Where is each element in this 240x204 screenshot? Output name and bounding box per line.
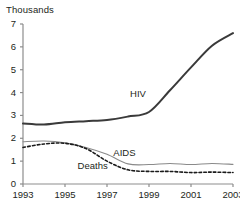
- y-axis-tick-label: 7: [2, 19, 16, 29]
- x-axis-tick-label: 1997: [87, 190, 127, 200]
- chart-container: Thousands 01234567 199319951997199920012…: [0, 0, 240, 204]
- series-label-deaths: Deaths: [78, 161, 108, 171]
- x-axis-tick-label: 1993: [3, 190, 43, 200]
- y-axis-tick-label: 0: [2, 179, 16, 189]
- x-axis-tick-label: 1999: [129, 190, 169, 200]
- x-axis-tick-label: 1995: [45, 190, 85, 200]
- y-axis-tick-label: 4: [2, 88, 16, 98]
- y-axis-tick-label: 5: [2, 65, 16, 75]
- axes-group: [20, 24, 233, 187]
- y-axis-tick-label: 1: [2, 156, 16, 166]
- x-axis-tick-label: 2003: [213, 190, 240, 200]
- y-axis-tick-label: 3: [2, 110, 16, 120]
- chart-plot-area: [0, 0, 240, 204]
- series-line-hiv: [23, 33, 233, 124]
- y-axis-tick-label: 2: [2, 133, 16, 143]
- y-axis-tick-label: 6: [2, 42, 16, 52]
- series-label-aids: AIDS: [113, 148, 135, 158]
- series-label-hiv: HIV: [130, 89, 146, 99]
- x-axis-tick-label: 2001: [171, 190, 211, 200]
